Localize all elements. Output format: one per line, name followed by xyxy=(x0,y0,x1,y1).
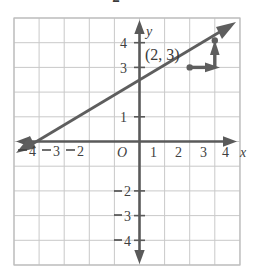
y-tick-label--3: 3 xyxy=(124,209,131,224)
point-marker-2-3 xyxy=(187,64,193,70)
x-tick-label-4: 4 xyxy=(222,145,229,160)
y-tick-label--2: 2 xyxy=(124,184,131,199)
point-coordinate-label: (2, 3) xyxy=(145,46,180,64)
y-tick-label--4: 4 xyxy=(124,234,131,249)
slope-run-arrowhead xyxy=(205,63,220,73)
y-axis-arrow-up xyxy=(134,20,144,34)
x-tick-label-2: 2 xyxy=(175,145,182,160)
y-tick-label-3: 3 xyxy=(120,61,127,76)
y-tick-label-4: 4 xyxy=(120,36,127,51)
y-axis-arrow-down xyxy=(134,250,144,264)
point-marker-upper xyxy=(212,37,218,43)
x-tick-label--3: 3 xyxy=(53,144,60,159)
x-tick-label--2: 2 xyxy=(77,144,84,159)
x-axis-label: x xyxy=(239,145,247,160)
y-axis-label: y xyxy=(144,24,153,39)
function-line-arrow-upper-right xyxy=(216,22,236,39)
x-tick-label-3: 3 xyxy=(200,145,207,160)
y-tick-label-1: 1 xyxy=(120,110,127,125)
x-tick-label-1: 1 xyxy=(150,145,157,160)
coordinate-plane-svg: 4 3 2 O 1 2 3 4 x 4 3 1 2 3 4 y (2, xyxy=(0,0,264,273)
graph-figure: 2 xyxy=(0,0,264,273)
cropped-exercise-number: 2 xyxy=(104,0,128,3)
x-axis-tick-labels: 4 3 2 O 1 2 3 4 x xyxy=(18,144,247,160)
x-tick-label--4: 4 xyxy=(29,144,36,159)
origin-label: O xyxy=(117,145,127,160)
